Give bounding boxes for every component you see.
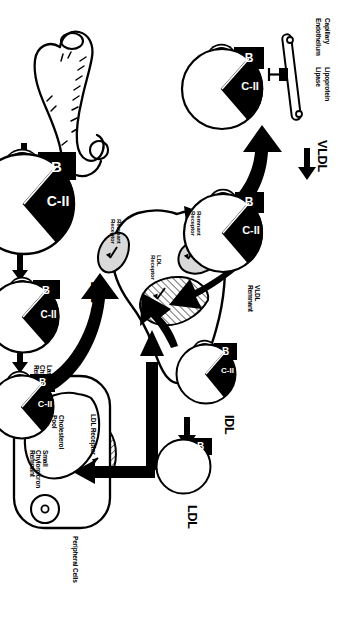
apo-cii-label: C-II	[40, 397, 50, 412]
label-idl: IDL	[222, 415, 235, 435]
label-lipoprotein-lipase-vldl: Lipoprotein	[323, 67, 330, 101]
arrow-chylomicron-to-large-remnant	[12, 253, 28, 281]
apo-cii-label: C-II	[50, 190, 66, 213]
label-lipoprotein-lipase-vldl-2: Lipase	[314, 67, 321, 87]
label-vldl: VLDL	[315, 140, 328, 172]
ldl-stem	[91, 466, 155, 478]
particle-ldl[interactable]: B	[155, 438, 212, 495]
particle-large-chylomicron-remnant[interactable]: C-II B E	[0, 280, 60, 354]
label-ldl: LDL	[185, 505, 198, 529]
particle-vldl[interactable]: C-II B E	[180, 47, 264, 131]
label-cholesterol-pool: Cholesterol Pool	[51, 415, 64, 449]
diagram-rotated-group: C-II B E VLDL C-II B E VLDL Remnant C-II…	[0, 0, 348, 626]
label-ldl-receptor-cell: LDL Receptor	[89, 414, 96, 455]
particle-small-chylomicron-remnant[interactable]: C-II B E	[0, 374, 55, 440]
label-vldl-remnant: VLDL Remnant	[247, 285, 260, 312]
label-small-chylomicron-remnant: Small Chylomicron Remnant	[28, 450, 48, 488]
arrow-vldl-to-vldl-remnant	[298, 148, 316, 180]
label-capillary-endothelium-vldl: Capillary	[323, 18, 330, 44]
apo-cii-label: C-II	[244, 77, 256, 95]
apo-cii-label: C-II	[223, 364, 232, 377]
particle-idl[interactable]: C-II B E	[175, 343, 237, 405]
lpl-emblem-vldl	[269, 34, 302, 120]
apo-cii-label: C-II	[43, 306, 54, 322]
label-remnant-receptor-lower: Remnant Receptor	[110, 219, 122, 244]
label-remnant-receptor-upper: Remnant Receptor	[190, 211, 202, 236]
figure-canvas: C-II B E VLDL C-II B E VLDL Remnant C-II…	[0, 0, 348, 626]
apo-cii-label: C-II	[245, 221, 257, 239]
label-peripheral-cells: Peripheral Cells	[71, 536, 78, 583]
label-capillary-endothelium-vldl-2: Endothelium	[314, 18, 321, 56]
label-ldl-receptor-liver: LDL Receptor	[150, 255, 162, 280]
label-liver: Liver	[88, 281, 105, 322]
particle-chylomicron[interactable]: C-II B E	[0, 152, 76, 256]
